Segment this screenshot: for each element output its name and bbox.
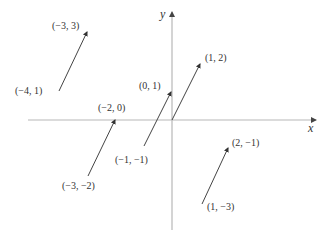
y-axis-label: y (159, 7, 166, 21)
point-label: (2, −1) (232, 137, 259, 149)
point-label: (−3, 3) (52, 20, 79, 32)
vector-arrow (88, 120, 115, 176)
point-label: (1, 2) (205, 52, 227, 64)
x-axis-label: x (307, 121, 314, 135)
vector-arrows (59, 32, 228, 204)
vector-arrow (172, 64, 200, 120)
point-label: (1, −3) (207, 201, 234, 213)
point-label: (−2, 0) (98, 102, 125, 114)
point-label: (−4, 1) (15, 85, 42, 97)
vector-arrow (144, 92, 171, 146)
point-label: (−1, −1) (115, 154, 148, 166)
point-labels: (−3, 3)(−4, 1)(0, 1)(1, 2)(−2, 0)(−1, −1… (15, 20, 259, 213)
point-label: (−3, −2) (62, 180, 95, 192)
vector-arrow (59, 32, 87, 91)
vector-arrow (202, 148, 228, 204)
point-label: (0, 1) (139, 80, 161, 92)
vector-diagram: x y (−3, 3)(−4, 1)(0, 1)(1, 2)(−2, 0)(−1… (0, 0, 324, 230)
